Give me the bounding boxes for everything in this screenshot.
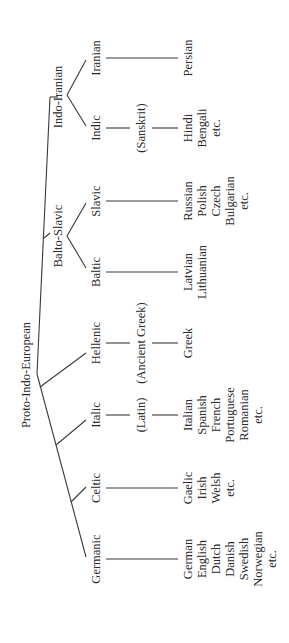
modern-language: etc. <box>223 479 237 497</box>
modern-language: Hindi <box>181 113 195 142</box>
modern-baltic: Latvian Lithuanian <box>181 244 209 299</box>
branch-slavic: Slavic <box>89 185 103 217</box>
ancient-sanskrit: (Sanskrit) <box>134 103 148 152</box>
modern-language: Lithuanian <box>195 244 209 299</box>
balto-slavic-label: Balto-Slavic <box>51 204 65 267</box>
edge-bs-slavic <box>67 203 86 236</box>
branch-hellenic: Hellenic <box>89 321 103 364</box>
modern-language: Gaelic <box>181 471 195 504</box>
modern-language: etc. <box>265 550 279 568</box>
branch-baltic: Baltic <box>89 257 103 287</box>
modern-celtic: Gaelic Irish Welsh etc. <box>181 471 237 504</box>
edge-trunk-upper <box>37 97 50 374</box>
edge-pie-balto-slavic <box>44 233 50 238</box>
modern-language: Russian <box>181 180 195 220</box>
edge-bs-baltic <box>67 236 86 268</box>
edge-ii-indic <box>67 95 86 126</box>
modern-language: Danish <box>223 541 237 577</box>
modern-language: Italian <box>181 398 195 431</box>
modern-language: etc. <box>251 406 265 424</box>
modern-language: German <box>181 538 195 579</box>
modern-language: Bulgarian <box>223 176 237 226</box>
modern-language: English <box>195 539 209 578</box>
edge-pie-italic <box>56 420 86 445</box>
indo-iranian-label: Indo-Iranian <box>51 65 65 128</box>
root-label: Proto-Indo-European <box>19 321 33 428</box>
modern-language: Greek <box>181 327 195 358</box>
modern-language: French <box>209 397 223 432</box>
ancient-greek: (Ancient Greek) <box>134 302 148 384</box>
edge-pie-celtic <box>71 487 86 502</box>
modern-language: Portuguese <box>223 387 237 443</box>
modern-language: Norwegian <box>251 530 265 586</box>
modern-language: Bengali <box>195 108 209 147</box>
tree-edges <box>37 58 178 559</box>
modern-language: Dutch <box>209 543 223 574</box>
modern-language: etc. <box>237 192 251 210</box>
modern-language: etc. <box>209 119 223 137</box>
modern-germanic: German English Dutch Danish Swedish Norw… <box>181 530 279 586</box>
modern-language: Czech <box>209 185 223 217</box>
language-tree-diagram: Proto-Indo-European Balto-Slavic Indo-Ir… <box>0 0 289 643</box>
edge-trunk-lower <box>37 374 86 557</box>
modern-language: Spanish <box>195 394 209 434</box>
edge-pie-hellenic <box>40 353 86 387</box>
branch-iranian: Iranian <box>89 40 103 76</box>
tree-labels: Proto-Indo-European Balto-Slavic Indo-Ir… <box>19 39 279 587</box>
modern-language: Swedish <box>237 537 251 580</box>
modern-indic: Hindi Bengali etc. <box>181 108 223 147</box>
ancient-latin: (Latin) <box>134 398 148 433</box>
modern-hellenic: Greek <box>181 327 195 358</box>
branch-italic: Italic <box>89 402 103 428</box>
modern-language: Romanian <box>237 389 251 441</box>
modern-language: Latvian <box>181 252 195 291</box>
edge-ii-iranian <box>67 60 86 95</box>
modern-iranian: Persian <box>181 39 195 77</box>
branch-celtic: Celtic <box>89 473 103 503</box>
modern-language: Persian <box>181 39 195 77</box>
modern-italic: Italian Spanish French Portuguese Romani… <box>181 387 265 443</box>
modern-slavic: Russian Polish Czech Bulgarian etc. <box>181 176 251 226</box>
modern-language: Irish <box>195 476 209 500</box>
tree-svg: Proto-Indo-European Balto-Slavic Indo-Ir… <box>0 0 289 643</box>
modern-language: Welsh <box>209 472 223 504</box>
branch-indic: Indic <box>89 115 103 141</box>
branch-germanic: Germanic <box>89 534 103 584</box>
modern-language: Polish <box>195 185 209 217</box>
